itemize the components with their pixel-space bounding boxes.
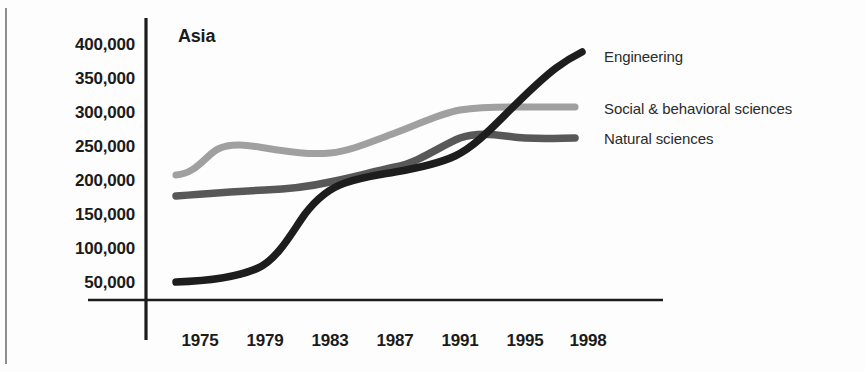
- legend-label-engineering: Engineering: [604, 48, 683, 65]
- legend-label-social-behavioral-sciences: Social & behavioral sciences: [604, 100, 792, 117]
- series-line-social-behavioral-sciences: [176, 107, 575, 175]
- chart-plot-area: [0, 0, 865, 372]
- chart-figure: Asia 400,000 350,000 300,000 250,000 200…: [0, 0, 865, 372]
- legend-label-natural-sciences: Natural sciences: [604, 130, 713, 147]
